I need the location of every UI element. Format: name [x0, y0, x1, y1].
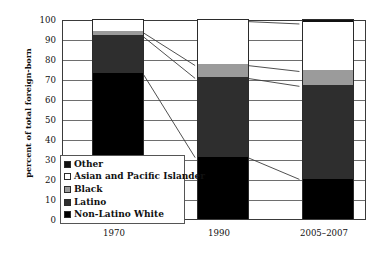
black-swatch [64, 186, 71, 193]
other-swatch [64, 161, 71, 168]
y-tick-label: 20 [30, 176, 56, 185]
y-tick-label: 60 [30, 96, 56, 105]
legend-item-latino[interactable]: Latino [64, 196, 181, 209]
bar-segment-latino [302, 85, 354, 179]
legend-label: Latino [74, 198, 106, 207]
y-axis-tick-labels: 100 90 80 70 60 50 40 30 20 10 0 [26, 0, 56, 210]
non-latino-white-swatch [64, 211, 71, 218]
legend-item-other[interactable]: Other [64, 158, 181, 171]
legend-item-black[interactable]: Black [64, 183, 181, 196]
legend-item-non-latino-white[interactable]: Non-Latino White [64, 208, 181, 221]
bar-segment-asian-pacific-islander [302, 22, 354, 70]
connector-line [248, 22, 300, 24]
y-tick-label: 50 [30, 116, 56, 125]
x-tick-label-2005-2007: 2005–2007 [272, 228, 376, 238]
bar-segment-black [197, 64, 249, 77]
bar-2005-2007[interactable] [302, 19, 354, 219]
legend: Other Asian and Pacific Islander Black L… [60, 155, 185, 224]
bar-segment-other [302, 19, 354, 22]
bar-segment-non-latino-white [302, 179, 354, 219]
legend-item-asian-and-pacific-islander[interactable]: Asian and Pacific Islander [64, 171, 181, 184]
legend-label: Other [74, 160, 103, 169]
bar-segment-latino [197, 77, 249, 157]
bar-segment-latino [92, 35, 144, 73]
y-tick-label: 30 [30, 156, 56, 165]
y-tick-label: 70 [30, 76, 56, 85]
connector-line [248, 66, 300, 72]
y-tick-label: 0 [30, 216, 56, 225]
connector-line [143, 74, 195, 157]
connector-line [143, 37, 195, 79]
legend-label: Black [74, 185, 103, 194]
x-tick-label-1990: 1990 [167, 228, 271, 238]
latino-swatch [64, 199, 71, 206]
y-tick-label: 10 [30, 196, 56, 205]
stacked-bar-chart: percent of total foreign-born 100 90 80 … [0, 0, 389, 261]
api-swatch [64, 173, 71, 180]
legend-label: Non-Latino White [74, 210, 164, 219]
y-tick-label: 80 [30, 56, 56, 65]
bar-segment-black [92, 31, 144, 35]
y-tick-label: 100 [30, 16, 56, 25]
bar-segment-non-latino-white [197, 157, 249, 219]
y-tick-label: 90 [30, 36, 56, 45]
bar-segment-asian-pacific-islander [92, 19, 144, 31]
y-tick-label: 40 [30, 136, 56, 145]
legend-label: Asian and Pacific Islander [74, 172, 205, 181]
bar-segment-asian-pacific-islander [197, 19, 249, 64]
bar-1990[interactable] [197, 19, 249, 219]
x-tick-label-1970: 1970 [62, 228, 166, 238]
bar-segment-black [302, 70, 354, 85]
